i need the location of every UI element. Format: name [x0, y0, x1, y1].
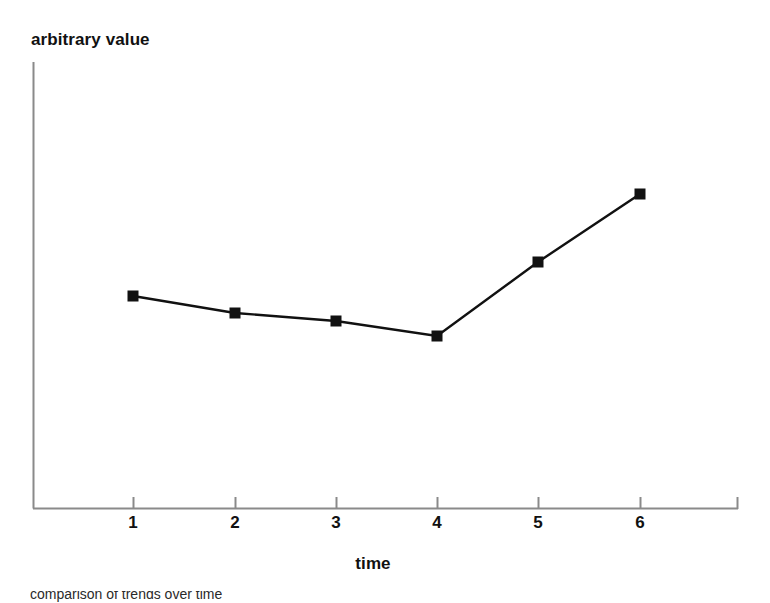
x-tick-label-2: 2 — [215, 513, 255, 533]
x-tick-label-3: 3 — [316, 513, 356, 533]
data-point-1 — [128, 291, 139, 302]
data-point-2 — [230, 308, 241, 319]
data-point-3 — [331, 316, 342, 327]
data-point-6 — [635, 189, 646, 200]
data-point-markers — [128, 189, 646, 342]
data-point-4 — [432, 331, 443, 342]
x-axis-title: time — [0, 554, 758, 574]
x-tick-label-5: 5 — [518, 513, 558, 533]
data-point-5 — [533, 257, 544, 268]
x-tick-label-1: 1 — [113, 513, 153, 533]
clipped-caption-text: comparison of trends over time — [30, 591, 222, 602]
x-axis-ticks — [134, 497, 738, 509]
clipped-caption: comparison of trends over time — [30, 591, 500, 603]
data-series-line — [133, 194, 640, 336]
x-tick-label-6: 6 — [620, 513, 660, 533]
chart-figure: arbitrary value 1 2 3 4 — [0, 0, 770, 603]
x-tick-label-4: 4 — [417, 513, 457, 533]
